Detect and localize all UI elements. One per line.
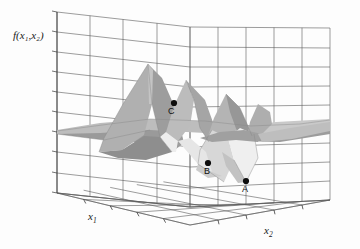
surface-plot-canvas <box>0 0 360 249</box>
point-label-a: A <box>242 185 248 194</box>
x2-axis-label-sub: 2 <box>269 230 273 239</box>
surface-plot-figure: f(x₁,x₂) x1 x2 C B A <box>0 0 360 249</box>
x2-axis-label: x2 <box>264 225 273 239</box>
function-surface <box>57 64 330 183</box>
point-label-c: C <box>168 107 175 116</box>
grid-floor <box>57 182 330 225</box>
plot-grid-walls <box>57 12 330 207</box>
z-axis-label: f(x₁,x₂) <box>13 30 44 41</box>
z-axis-ticks <box>52 11 57 193</box>
point-label-b: B <box>204 167 210 176</box>
x1-axis-label-sub: 1 <box>93 216 97 225</box>
x1-axis-label: x1 <box>88 211 97 225</box>
z-axis-label-text: f(x₁,x₂) <box>13 29 44 41</box>
